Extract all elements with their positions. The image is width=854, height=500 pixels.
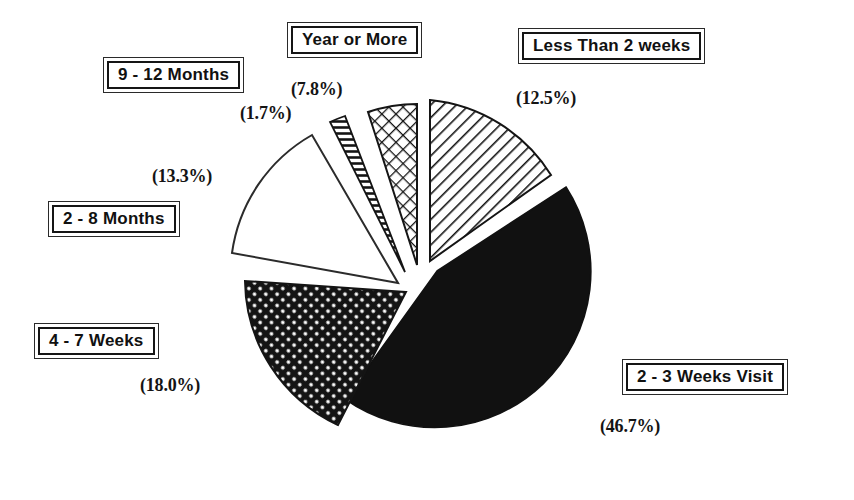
slice-label-text: 4 - 7 Weeks: [49, 332, 144, 349]
pie-chart: Less Than 2 weeks (12.5%) Year or More (…: [0, 0, 854, 500]
slice-label-2-3-weeks-visit[interactable]: 2 - 3 Weeks Visit: [622, 359, 788, 395]
slice-percent-2-8-months: (13.3%): [152, 166, 212, 187]
slice-percent-year-or-more: (7.8%): [291, 79, 342, 100]
slice-percent-9-12-months: (1.7%): [240, 103, 291, 124]
slice-percent-2-3-weeks-visit: (46.7%): [600, 416, 660, 437]
slice-percent-4-7-weeks: (18.0%): [140, 375, 200, 396]
slice-label-text: Year or More: [302, 31, 407, 48]
slice-label-2-8-months[interactable]: 2 - 8 Months: [48, 201, 180, 237]
slice-label-year-or-more[interactable]: Year or More: [287, 22, 422, 58]
slice-label-4-7-weeks[interactable]: 4 - 7 Weeks: [34, 323, 159, 359]
slice-percent-less-than-2-weeks: (12.5%): [516, 88, 576, 109]
slice-label-text: 2 - 8 Months: [63, 210, 165, 227]
slice-label-less-than-2-weeks[interactable]: Less Than 2 weeks: [518, 28, 705, 64]
slice-label-9-12-months[interactable]: 9 - 12 Months: [103, 57, 244, 93]
slice-label-text: Less Than 2 weeks: [533, 37, 690, 54]
slice-label-text: 2 - 3 Weeks Visit: [637, 368, 773, 385]
slice-label-text: 9 - 12 Months: [118, 66, 229, 83]
